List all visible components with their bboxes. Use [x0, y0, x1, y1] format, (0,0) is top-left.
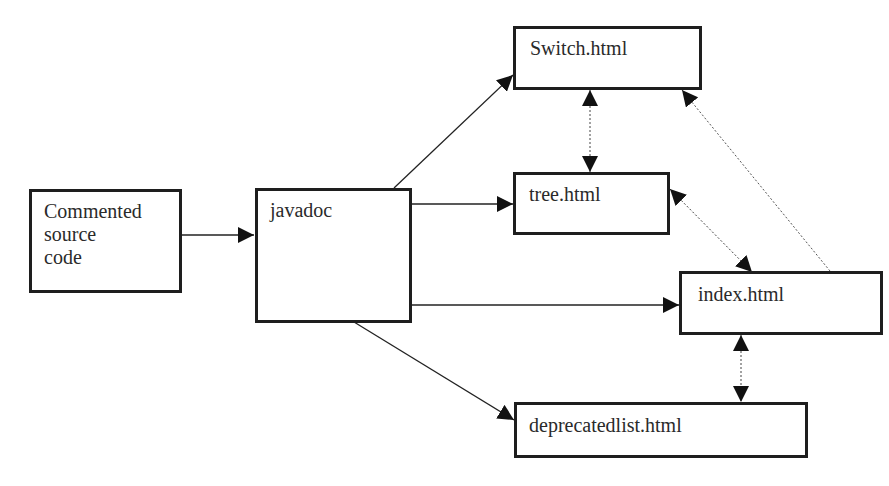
node-deprecatedlist-html: deprecatedlist.html — [514, 402, 808, 458]
node-label: tree.html — [529, 183, 601, 206]
node-label: Switch.html — [530, 37, 627, 60]
node-label: deprecatedlist.html — [529, 414, 682, 437]
node-label: javadoc — [270, 199, 332, 222]
node-javadoc: javadoc — [255, 188, 412, 323]
edge-javadoc-to-deprecated — [354, 322, 514, 420]
edge-tree-index — [670, 189, 752, 272]
node-index-html: index.html — [679, 271, 883, 335]
edge-javadoc-to-switch — [394, 75, 513, 188]
edge-index-to-switch — [682, 90, 830, 271]
node-switch-html: Switch.html — [513, 26, 702, 90]
node-commented-source-code: Commented source code — [29, 189, 182, 293]
node-label: Commented source code — [44, 200, 142, 269]
node-tree-html: tree.html — [513, 172, 670, 235]
node-label: index.html — [698, 283, 784, 306]
